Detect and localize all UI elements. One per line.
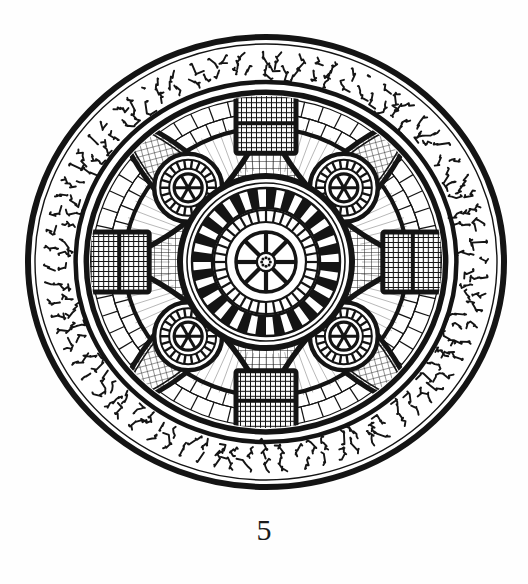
- satellite-rosette-ray: [184, 309, 185, 318]
- satellite-rosette-ray: [184, 160, 185, 169]
- satellite-rosette-ray: [347, 309, 348, 318]
- figure-page: 5: [0, 0, 528, 584]
- inscription-glyph: [368, 75, 371, 77]
- central-pip-petal: [265, 265, 268, 268]
- central-pip-ring: [257, 253, 275, 271]
- cardinal-arm: [236, 371, 296, 431]
- central-pip-petal: [268, 257, 271, 260]
- central-pip-petal: [269, 261, 272, 264]
- satellite-rosette-ray: [340, 160, 341, 169]
- satellite-rosette-hub-pip: [341, 333, 347, 339]
- central-pip-petal: [261, 264, 264, 267]
- central-rosette: [180, 176, 352, 348]
- cardinal-arm: [236, 93, 296, 153]
- central-pip-petal: [268, 264, 271, 267]
- central-pip-petal: [260, 261, 263, 264]
- medallion-svg: [0, 0, 528, 500]
- cardinal-arm: [383, 232, 443, 292]
- central-pip-petal: [265, 256, 268, 259]
- satellite-rosette-ray: [347, 207, 348, 216]
- satellite-rosette-ray: [191, 160, 192, 169]
- satellite-rosette-ray: [347, 160, 348, 169]
- central-pip-petal: [261, 257, 264, 260]
- satellite-rosette-ray: [184, 207, 185, 216]
- cardinal-arm: [89, 232, 149, 292]
- satellite-rosette-ray: [184, 355, 185, 364]
- figure-caption: 5: [0, 500, 528, 560]
- satellite-rosette-ray: [191, 355, 192, 364]
- satellite-rosette-hub-pip: [341, 185, 347, 191]
- ornamental-medallion-figure: [0, 0, 528, 500]
- figure-root: [28, 37, 504, 487]
- satellite-rosette-hub-pip: [185, 333, 191, 339]
- satellite-rosette-hub-pip: [185, 185, 191, 191]
- satellite-rosette-ray: [340, 355, 341, 364]
- inscription-glyph-stroke: [368, 75, 371, 77]
- satellite-rosette-ray: [347, 355, 348, 364]
